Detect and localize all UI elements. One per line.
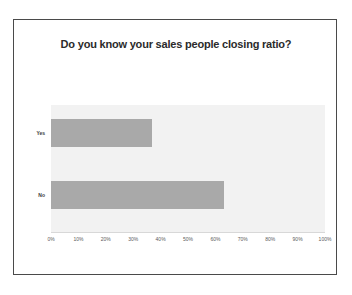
bar-no bbox=[51, 181, 224, 209]
x-tick-label: 10% bbox=[73, 236, 83, 242]
bar-yes bbox=[51, 119, 152, 147]
x-tick-label: 60% bbox=[210, 236, 220, 242]
x-tick-label: 80% bbox=[265, 236, 275, 242]
bar-row: No bbox=[51, 181, 325, 209]
x-tick-label: 0% bbox=[47, 236, 54, 242]
x-axis: 0%10%20%30%40%50%60%70%80%90%100% bbox=[51, 232, 325, 248]
x-tick-label: 70% bbox=[238, 236, 248, 242]
category-label-no: No bbox=[38, 192, 45, 198]
chart-plot-area: Yes No bbox=[51, 105, 325, 232]
category-label-yes: Yes bbox=[36, 130, 45, 136]
x-tick-label: 30% bbox=[128, 236, 138, 242]
slide-frame: Do you know your sales people closing ra… bbox=[13, 19, 337, 275]
x-axis-line bbox=[51, 232, 325, 233]
x-tick-label: 90% bbox=[293, 236, 303, 242]
slide-page: Do you know your sales people closing ra… bbox=[0, 0, 352, 295]
x-tick-label: 100% bbox=[319, 236, 332, 242]
x-tick-label: 50% bbox=[183, 236, 193, 242]
x-tick-label: 20% bbox=[101, 236, 111, 242]
bar-row: Yes bbox=[51, 119, 325, 147]
page-title: Do you know your sales people closing ra… bbox=[36, 38, 316, 51]
x-tick-label: 40% bbox=[156, 236, 166, 242]
